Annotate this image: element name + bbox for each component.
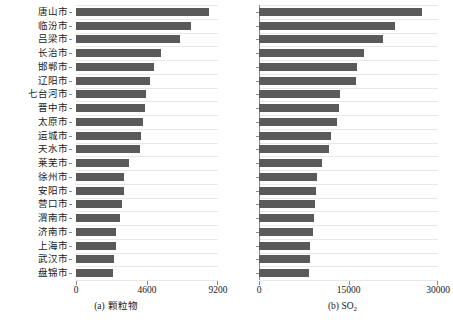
bar [259, 35, 383, 43]
y-axis-label: 盘锦市 [38, 268, 68, 278]
bar [259, 214, 314, 222]
x-axis-ticks-b: 01500030000 [259, 281, 438, 293]
plot-area-a [76, 5, 218, 281]
x-tick-label: 0 [74, 285, 79, 296]
y-tick-mark [69, 191, 72, 192]
bar [76, 214, 120, 222]
y-tick-mark [69, 163, 72, 164]
bar [76, 228, 116, 236]
y-axis-label: 长治市 [38, 48, 68, 58]
panel-label-a: (a) [94, 301, 105, 311]
bar [259, 49, 364, 57]
y-tick-mark [69, 12, 72, 13]
y-axis-label: 安阳市 [38, 186, 68, 196]
panel-title-a: 颗粒物 [108, 300, 138, 311]
bar [259, 173, 317, 181]
y-tick-mark [69, 53, 72, 54]
y-tick-mark [69, 67, 72, 68]
y-tick-mark [69, 232, 72, 233]
bar [259, 200, 315, 208]
y-axis-label: 唐山市 [38, 7, 68, 17]
bar [259, 145, 329, 153]
x-tick-label: 9200 [209, 285, 228, 296]
y-axis-label: 徐州市 [38, 172, 68, 182]
bar [259, 77, 356, 85]
y-axis-label: 莱芜市 [38, 158, 68, 168]
chart-panel-a: 唐山市临汾市吕梁市长治市邯郸市辽阳市七台河市晋中市太原市运城市天水市莱芜市徐州市… [0, 0, 232, 322]
bar [76, 187, 124, 195]
y-tick-mark [69, 204, 72, 205]
x-tick-label: 15000 [337, 285, 361, 296]
bar [259, 242, 310, 250]
panel-label-b: (b) [328, 301, 339, 311]
bar [76, 63, 154, 71]
y-tick-mark [69, 94, 72, 95]
bar [76, 104, 145, 112]
bar [259, 118, 337, 126]
bar [76, 22, 191, 30]
y-tick-mark [69, 39, 72, 40]
y-tick-mark [69, 218, 72, 219]
figure-root: 唐山市临汾市吕梁市长治市邯郸市辽阳市七台河市晋中市太原市运城市天水市莱芜市徐州市… [0, 0, 453, 322]
so2-subscript: 2 [354, 305, 358, 313]
x-tick-label: 0 [257, 285, 262, 296]
y-axis-label: 邯郸市 [38, 62, 68, 72]
y-axis-label: 太原市 [38, 117, 68, 127]
bar [259, 63, 357, 71]
y-tick-mark [69, 246, 72, 247]
x-tick-label: 4600 [138, 285, 157, 296]
bar-series-a [76, 5, 218, 280]
y-axis-label: 运城市 [38, 131, 68, 141]
y-tick-mark [69, 259, 72, 260]
x-axis-ticks-a: 046009200 [76, 281, 218, 293]
bar [76, 132, 141, 140]
bar [76, 200, 122, 208]
bar-series-b [259, 5, 438, 280]
bar [259, 8, 422, 16]
bar [76, 118, 143, 126]
y-axis-label: 晋中市 [38, 103, 68, 113]
bar [76, 173, 124, 181]
panel-caption-b: (b) SO2 [232, 300, 453, 313]
bar [259, 132, 331, 140]
y-tick-mark [69, 122, 72, 123]
panel-caption-a: (a) 颗粒物 [0, 300, 232, 312]
x-tick-label: 30000 [426, 285, 450, 296]
bar [259, 255, 310, 263]
y-tick-mark [69, 81, 72, 82]
y-tick-mark [69, 108, 72, 109]
y-axis-label: 济南市 [38, 227, 68, 237]
bar [76, 255, 114, 263]
y-tick-mark [69, 177, 72, 178]
y-axis-label: 武汉市 [38, 254, 68, 264]
bar [76, 35, 180, 43]
y-tick-mark [69, 149, 72, 150]
bar [76, 90, 146, 98]
y-axis-label: 上海市 [38, 241, 68, 251]
y-axis-label: 七台河市 [28, 89, 68, 99]
plot-area-b [259, 5, 438, 281]
y-axis-category-labels-a: 唐山市临汾市吕梁市长治市邯郸市辽阳市七台河市晋中市太原市运城市天水市莱芜市徐州市… [0, 5, 72, 280]
bar [259, 228, 313, 236]
y-tick-mark [69, 26, 72, 27]
y-axis-label: 营口市 [38, 199, 68, 209]
bar [76, 8, 209, 16]
y-axis-label: 辽阳市 [38, 76, 68, 86]
y-axis-label: 吕梁市 [38, 34, 68, 44]
bar [259, 187, 316, 195]
bar [76, 159, 129, 167]
bar [76, 145, 140, 153]
bar [76, 49, 161, 57]
chart-panel-b: 01500030000 (b) SO2 [232, 0, 453, 322]
bar [259, 22, 395, 30]
bar [259, 159, 322, 167]
y-axis-label: 渭南市 [38, 213, 68, 223]
y-axis-label: 临汾市 [38, 21, 68, 31]
bar [259, 269, 309, 277]
y-axis-label: 天水市 [38, 144, 68, 154]
bar [259, 90, 340, 98]
bar [259, 104, 339, 112]
bar [76, 77, 150, 85]
y-tick-mark [69, 136, 72, 137]
y-tick-mark [69, 273, 72, 274]
